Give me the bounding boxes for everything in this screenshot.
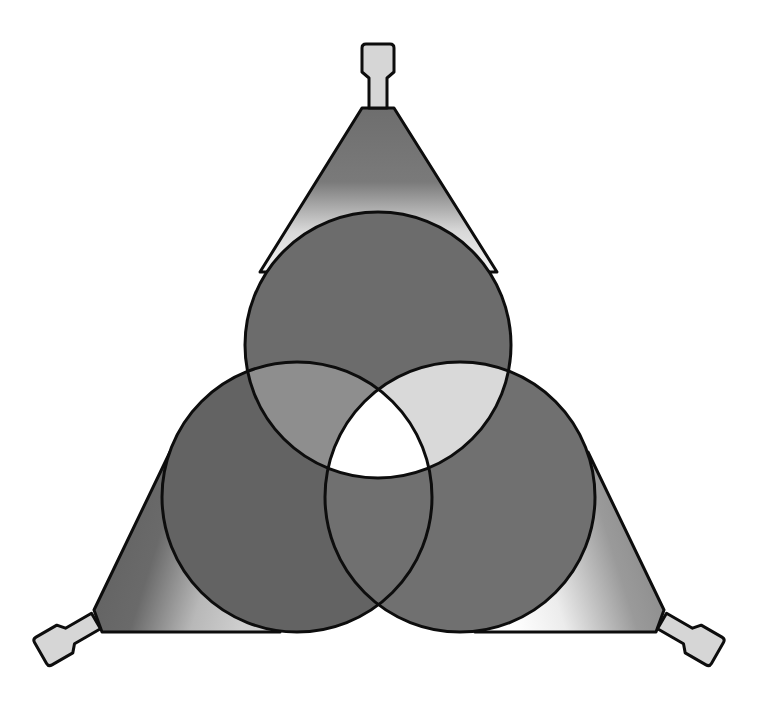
projector-bottom-right-icon [654,607,725,667]
projector-bottom-left-icon [33,607,104,667]
light-overlap-diagram [0,0,765,718]
projector-top-icon [362,44,394,108]
beam-circles [162,212,595,632]
